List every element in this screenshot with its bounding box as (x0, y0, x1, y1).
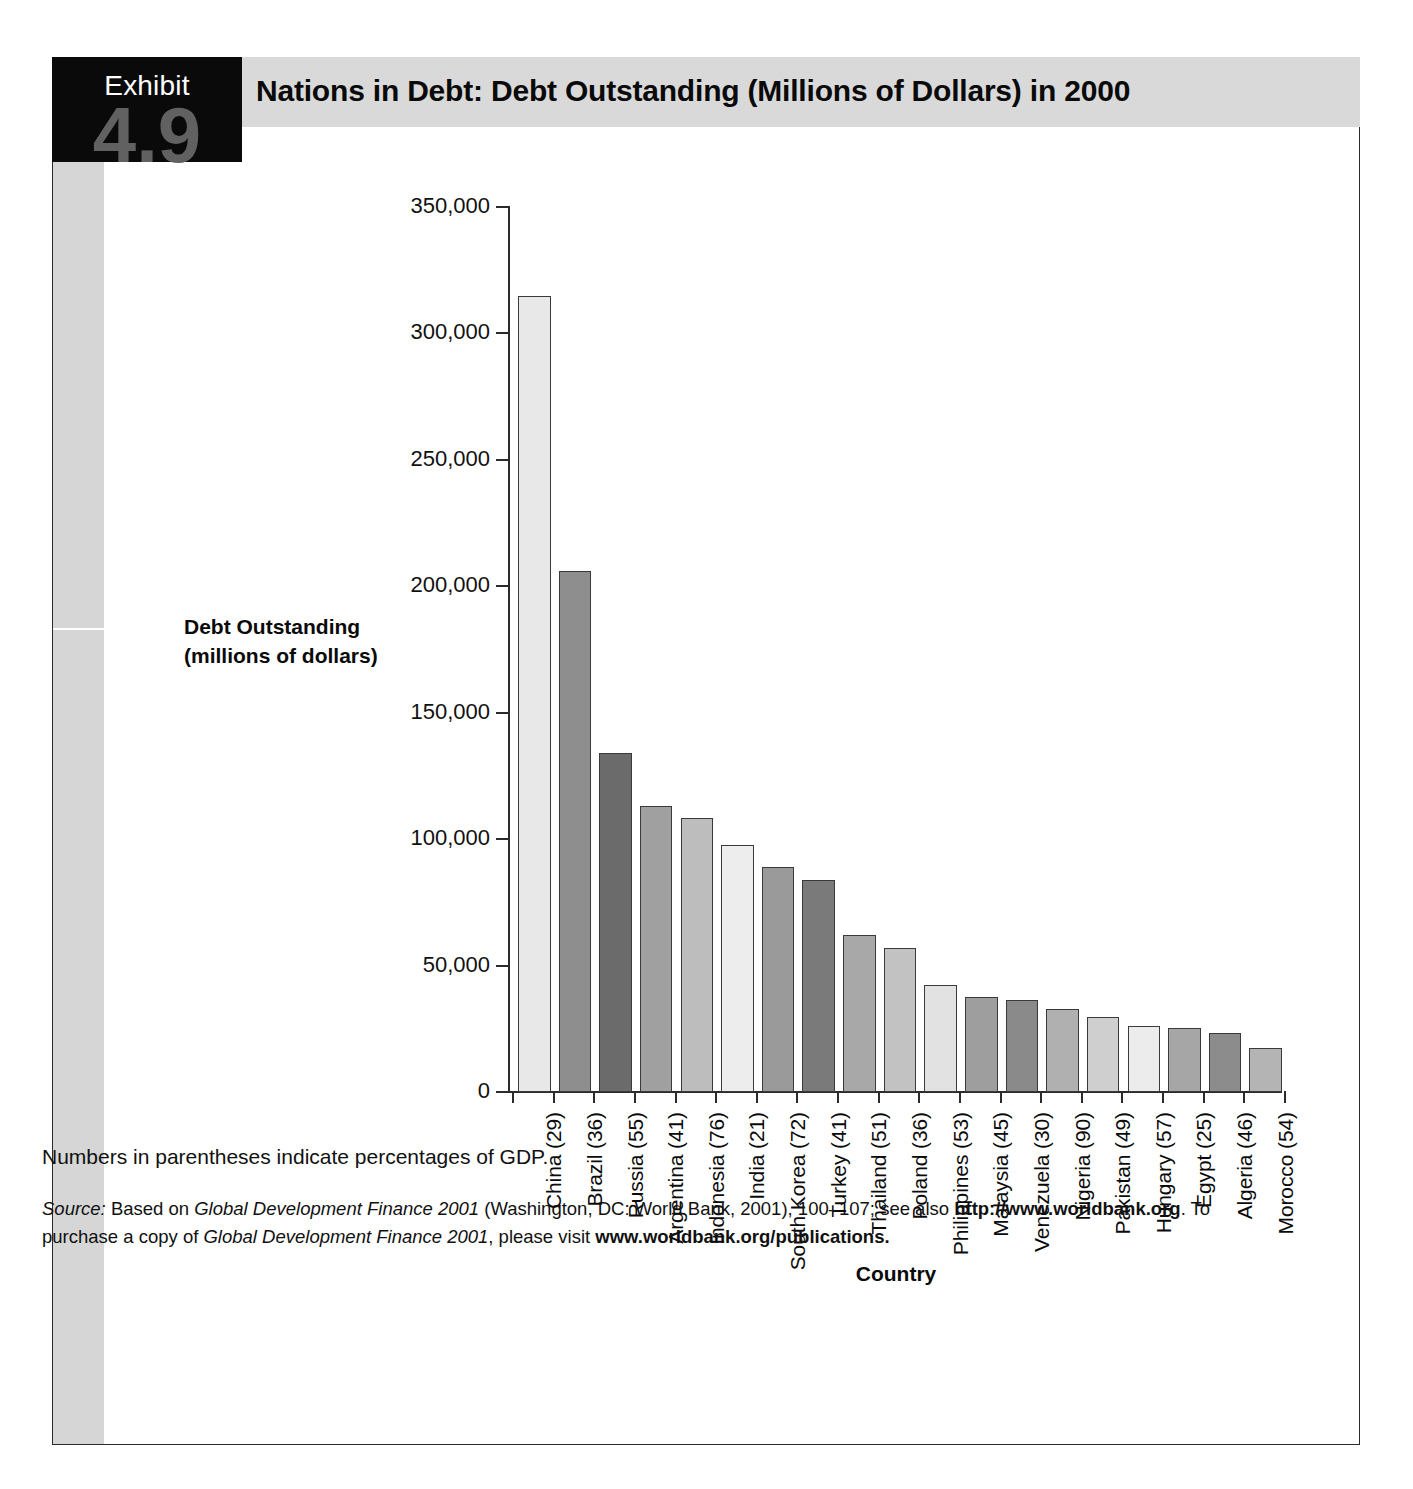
y-tick (496, 838, 510, 840)
x-tick (715, 1091, 717, 1103)
y-tick-label: 50,000 (104, 952, 490, 978)
bar[interactable] (1006, 1000, 1039, 1092)
bar[interactable] (884, 948, 917, 1092)
bar[interactable] (1128, 1026, 1161, 1092)
x-tick (1284, 1091, 1286, 1103)
bar-slot (1128, 207, 1161, 1092)
y-tick-label: 200,000 (104, 572, 490, 598)
bar-slot (802, 207, 835, 1092)
bar-slot (1168, 207, 1201, 1092)
y-tick (496, 712, 510, 714)
x-tick (1040, 1091, 1042, 1103)
x-tick (959, 1091, 961, 1103)
x-tick (1121, 1091, 1123, 1103)
bar-slot (884, 207, 917, 1092)
x-axis-label: Algeria (46) (1233, 1112, 1257, 1219)
bar-slot (924, 207, 957, 1092)
y-tick (496, 965, 510, 967)
y-axis-title-line1: Debt Outstanding (184, 612, 484, 641)
bar-slot (640, 207, 673, 1092)
bar-slot (1006, 207, 1039, 1092)
x-tick (512, 1091, 514, 1103)
source-text-5: , please visit (488, 1226, 595, 1247)
bar[interactable] (1168, 1028, 1201, 1092)
x-tick (675, 1091, 677, 1103)
bar-slot (1209, 207, 1242, 1092)
source-url-1[interactable]: http://www.worldbank.org (954, 1198, 1180, 1219)
bar-chart: Debt Outstanding (millions of dollars) 3… (104, 162, 1360, 1445)
bar[interactable] (843, 935, 876, 1092)
x-tick (1000, 1091, 1002, 1103)
exhibit-title: Nations in Debt: Debt Outstanding (Milli… (256, 74, 1130, 108)
bar[interactable] (640, 806, 673, 1092)
plot-area (510, 207, 1282, 1092)
exhibit-page: Exhibit 4.9 Nations in Debt: Debt Outsta… (0, 0, 1413, 1489)
y-tick (496, 1091, 510, 1093)
x-tick (1081, 1091, 1083, 1103)
source-text-1: Based on (106, 1198, 194, 1219)
y-tick (496, 206, 510, 208)
bar-slot (762, 207, 795, 1092)
x-tick (796, 1091, 798, 1103)
y-axis-title: Debt Outstanding (millions of dollars) (184, 612, 484, 670)
bar[interactable] (924, 985, 957, 1092)
y-axis-title-line2: (millions of dollars) (184, 641, 484, 670)
bar[interactable] (762, 867, 795, 1092)
source-text-3: . To (1181, 1198, 1210, 1219)
source-url-2[interactable]: www.worldbank.org/publications. (595, 1226, 889, 1247)
bar[interactable] (802, 880, 835, 1092)
bar[interactable] (599, 753, 632, 1092)
x-tick (593, 1091, 595, 1103)
y-tick-label: 0 (104, 1078, 490, 1104)
x-axis-title: Country (510, 1262, 1282, 1286)
bar[interactable] (1087, 1017, 1120, 1092)
y-tick-label: 150,000 (104, 699, 490, 725)
bar[interactable] (518, 296, 551, 1093)
x-tick (756, 1091, 758, 1103)
source-prefix: Source: (42, 1198, 106, 1219)
x-tick (837, 1091, 839, 1103)
bar[interactable] (1209, 1033, 1242, 1092)
x-tick (878, 1091, 880, 1103)
x-axis-label: Morocco (54) (1274, 1112, 1298, 1235)
y-tick-label: 350,000 (104, 193, 490, 219)
bar[interactable] (965, 997, 998, 1092)
y-tick-label: 100,000 (104, 825, 490, 851)
y-tick-label: 250,000 (104, 446, 490, 472)
y-tick (496, 585, 510, 587)
source-italic-1: Global Development Finance 2001 (194, 1198, 479, 1219)
x-tick (634, 1091, 636, 1103)
source-text-2: (Washington, DC: World Bank, 2001), 100–… (479, 1198, 954, 1219)
bar-slot (721, 207, 754, 1092)
bar[interactable] (559, 571, 592, 1092)
y-tick (496, 459, 510, 461)
source-italic-2: Global Development Finance 2001 (203, 1226, 488, 1247)
x-tick (1203, 1091, 1205, 1103)
bar[interactable] (1046, 1009, 1079, 1092)
bar-slot (559, 207, 592, 1092)
x-tick (918, 1091, 920, 1103)
footnote: Numbers in parentheses indicate percenta… (42, 1145, 1232, 1169)
x-tick (1243, 1091, 1245, 1103)
bar-slot (1046, 207, 1079, 1092)
bar-slot (965, 207, 998, 1092)
y-tick-label: 300,000 (104, 319, 490, 345)
source-note: Source: Based on Global Development Fina… (42, 1195, 1222, 1251)
bar-slot (1249, 207, 1282, 1092)
bar[interactable] (721, 845, 754, 1092)
bar[interactable] (1249, 1048, 1282, 1092)
bar-slot (843, 207, 876, 1092)
x-tick (1162, 1091, 1164, 1103)
bar-slot (599, 207, 632, 1092)
bar[interactable] (681, 818, 714, 1092)
x-tick (553, 1091, 555, 1103)
bar-slot (1087, 207, 1120, 1092)
y-tick (496, 332, 510, 334)
bar-slot (681, 207, 714, 1092)
source-text-4: purchase a copy of (42, 1226, 203, 1247)
bar-slot (518, 207, 551, 1092)
